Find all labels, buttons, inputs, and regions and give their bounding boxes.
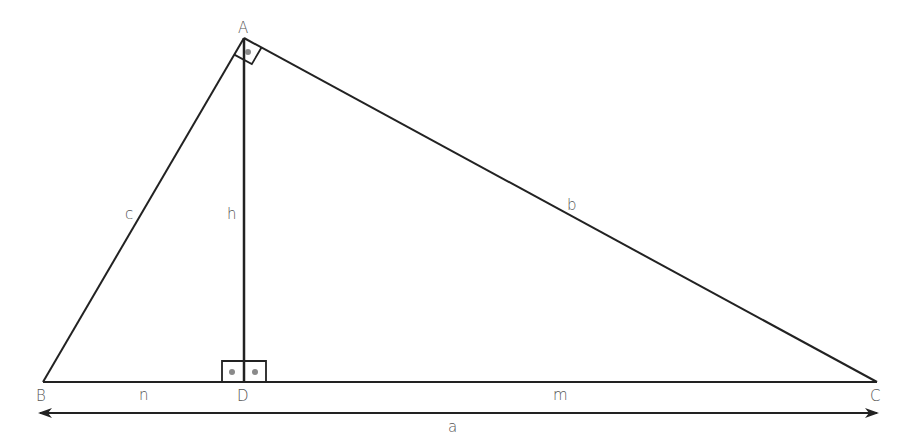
segment-label-c: c (125, 205, 133, 223)
angle-dot-A (245, 49, 251, 55)
vertex-label-D: D (237, 387, 249, 405)
triangle-diagram: A B C D c h b n m a (0, 0, 904, 447)
vertex-label-B: B (36, 387, 46, 405)
angle-dot-D-left (229, 369, 235, 375)
segment-label-m: m (553, 386, 568, 404)
vertex-label-C: C (870, 387, 880, 405)
segment-label-a: a (448, 418, 457, 436)
angle-dot-D-right (252, 369, 258, 375)
segment-label-n: n (139, 386, 149, 404)
side-c-AB (43, 38, 244, 382)
side-b-AC (244, 38, 877, 382)
segment-label-b: b (567, 196, 577, 214)
vertex-label-A: A (238, 19, 248, 37)
segment-label-h: h (227, 205, 237, 223)
